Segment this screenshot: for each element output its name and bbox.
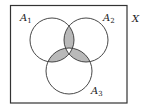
venn-diagram: A1 A2 A3 X <box>0 0 147 110</box>
set-a1-label-name: A <box>19 12 27 23</box>
set-a2-label-name: A <box>102 12 110 23</box>
set-a3-label-sub: 3 <box>98 90 102 98</box>
universe-label: X <box>131 13 140 24</box>
set-a2-label-sub: 2 <box>110 17 114 25</box>
set-a1-label-sub: 1 <box>27 17 31 25</box>
set-a3-label-name: A <box>90 85 98 96</box>
